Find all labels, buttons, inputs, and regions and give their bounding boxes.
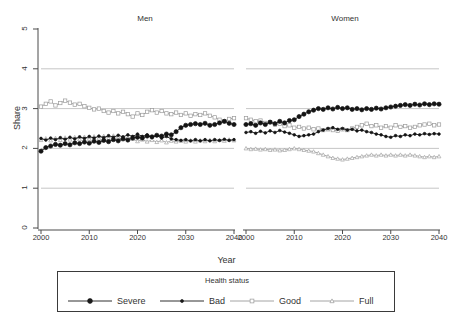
x-tick-women-2020: 2020 [326, 233, 360, 242]
x-tick-men-2000: 2000 [24, 233, 58, 242]
y-tick-1: 1 [20, 180, 29, 196]
x-tick-men-2020: 2020 [121, 233, 155, 242]
y-tick-5: 5 [20, 21, 29, 37]
x-tick-women-2000: 2000 [229, 233, 263, 242]
open-square-icon [228, 295, 276, 307]
legend-entry-full[interactable]: Full [308, 291, 374, 311]
legend-label-good: Good [279, 296, 301, 306]
y-tick-4: 4 [20, 60, 29, 76]
legend-entry-good[interactable]: Good [228, 291, 301, 311]
chart-root: Men Women Share Year 012345 200020102020… [0, 0, 453, 321]
legend-title: Health status [58, 276, 396, 285]
filled-circle-large-icon [66, 295, 114, 307]
x-tick-women-2010: 2010 [277, 233, 311, 242]
legend-entry-bad[interactable]: Bad [158, 291, 225, 311]
legend-label-full: Full [359, 296, 374, 306]
x-tick-women-2040: 2040 [422, 233, 453, 242]
filled-circle-small-icon [158, 295, 206, 307]
y-tick-3: 3 [20, 100, 29, 116]
x-tick-women-2030: 2030 [374, 233, 408, 242]
x-tick-men-2030: 2030 [169, 233, 203, 242]
legend-label-bad: Bad [209, 296, 225, 306]
legend-entry-severe[interactable]: Severe [66, 291, 146, 311]
x-tick-men-2010: 2010 [72, 233, 106, 242]
y-tick-2: 2 [20, 140, 29, 156]
open-triangle-icon [308, 295, 356, 307]
legend-label-severe: Severe [117, 296, 146, 306]
legend: Health status SevereBadGoodFull [57, 271, 395, 312]
legend-entries: SevereBadGoodFull [58, 291, 396, 311]
